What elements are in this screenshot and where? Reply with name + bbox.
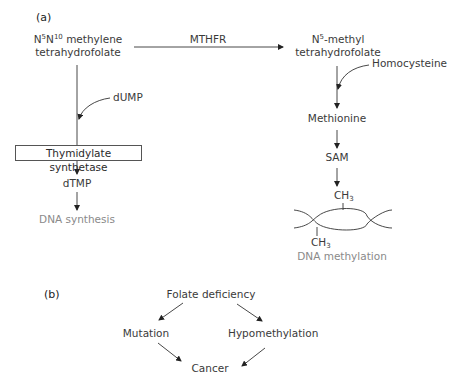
ch3-bottom-label: CH3 xyxy=(311,236,331,249)
ch3-top-label: CH3 xyxy=(334,189,354,202)
homocysteine-node: Homocysteine xyxy=(372,57,447,70)
methylene-thf-n1: N xyxy=(34,33,42,45)
cancer-node: Cancer xyxy=(190,362,230,375)
mthfr-label: MTHFR xyxy=(183,33,233,46)
dtmp-node: dTMP xyxy=(57,177,97,190)
methylene-thf-line2: tetrahydrofolate xyxy=(35,46,121,58)
dump-node: dUMP xyxy=(113,91,143,104)
methylene-thf-sup2: 10 xyxy=(54,33,63,41)
folate-metabolism-diagram: (a) N5N10 methylene tetrahydrofolate MTH… xyxy=(0,0,459,387)
dump-arrow xyxy=(79,98,110,119)
hypomethylation-to-cancer-arrow xyxy=(242,348,265,366)
dna-strand-1 xyxy=(294,210,392,230)
mutation-to-cancer-arrow xyxy=(158,343,181,361)
dna-synthesis-node: DNA synthesis xyxy=(37,213,117,226)
thymidylate-synthetase-box: Thymidylate synthetase xyxy=(15,145,142,161)
dna-methylation-node: DNA methylation xyxy=(297,250,387,263)
methyl-thf-post: -methyl xyxy=(324,33,364,45)
panel-b-label: (b) xyxy=(44,288,60,301)
dna-strand-2 xyxy=(294,209,392,229)
folate-to-hypomethylation-arrow xyxy=(237,304,262,321)
ch3-top-sub: 3 xyxy=(349,195,353,203)
methylene-thf-post: methylene xyxy=(63,33,123,45)
methyl-thf-node: N5-methyl tetrahydrofolate xyxy=(288,33,388,59)
methylene-thf-n2: N xyxy=(46,33,54,45)
ch3-top-base: CH xyxy=(334,189,349,201)
panel-a-label: (a) xyxy=(36,11,51,24)
ch3-bottom-sub: 3 xyxy=(326,242,330,250)
ch3-bottom-base: CH xyxy=(311,236,326,248)
mutation-node: Mutation xyxy=(120,327,172,340)
hypomethylation-node: Hypomethylation xyxy=(228,327,310,340)
homocysteine-arrow xyxy=(338,65,369,89)
sam-node: SAM xyxy=(317,151,357,164)
methylene-thf-node: N5N10 methylene tetrahydrofolate xyxy=(28,33,128,59)
methyl-thf-n: N xyxy=(312,33,320,45)
methyl-thf-line2: tetrahydrofolate xyxy=(295,46,381,58)
folate-to-mutation-arrow xyxy=(159,303,183,320)
methionine-node: Methionine xyxy=(297,112,377,125)
folate-deficiency-node: Folate deficiency xyxy=(165,288,257,301)
